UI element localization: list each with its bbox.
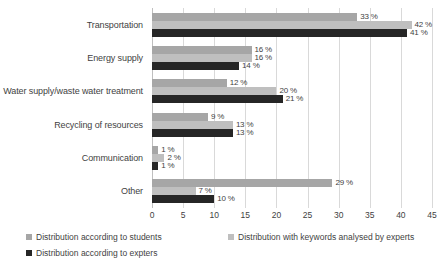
bar-group: 16 %16 %14 % [152,41,432,74]
bar-row: 2 % [152,154,432,162]
value-axis: 051015202530354045 [152,208,432,222]
value-axis-tick-label: 40 [396,210,405,220]
bar [152,187,196,195]
value-axis-tick-label: 45 [427,210,436,220]
bar-row: 9 % [152,113,432,121]
legend: Distribution according to students Distr… [26,232,436,264]
legend-swatch-icon [26,250,32,256]
category-label: Recycling of resources [0,108,148,141]
legend-item-students: Distribution according to students [26,232,228,242]
bar-row: 1 % [152,146,432,154]
value-axis-tick-label: 15 [241,210,250,220]
bar [152,87,276,95]
value-axis-tick-label: 10 [209,210,218,220]
bar-value-label: 29 % [332,179,352,187]
bar-groups: 33 %42 %41 %16 %16 %14 %12 %20 %21 %9 %1… [152,8,432,208]
legend-swatch-icon [26,234,32,240]
bar-row: 13 % [152,129,432,137]
legend-label: Distribution with keywords analysed by e… [238,232,414,242]
bar [152,121,233,129]
bar-row: 7 % [152,187,432,195]
bar-value-label: 41 % [407,29,427,37]
gridline [432,8,433,208]
bar-group: 1 %2 %1 % [152,141,432,174]
category-label: Energy supply [0,41,148,74]
category-label: Communication [0,141,148,174]
bar-group: 12 %20 %21 % [152,75,432,108]
legend-item-experts: Distribution according to expters [26,248,228,258]
legend-label: Distribution according to students [36,232,162,242]
category-label: Water supply/waste water treatment [0,75,148,108]
bar [152,29,407,37]
bar-value-label: 1 % [158,162,174,170]
bar-row: 10 % [152,195,432,203]
bar [152,21,412,29]
value-axis-tick-label: 35 [365,210,374,220]
bar [152,129,233,137]
bar [152,13,357,21]
legend-item-keywords: Distribution with keywords analysed by e… [228,232,414,242]
bar-group: 33 %42 %41 % [152,8,432,41]
legend-swatch-icon [228,234,234,240]
legend-label: Distribution according to expters [36,248,157,258]
bar-row: 14 % [152,62,432,70]
category-label: Other [0,175,148,208]
bar-value-label: 13 % [233,129,253,137]
bar-value-label: 12 % [227,79,247,87]
bar [152,95,283,103]
bar-value-label: 9 % [208,113,224,121]
bar-row: 41 % [152,29,432,37]
bar-row: 33 % [152,13,432,21]
bar-group: 9 %13 %13 % [152,108,432,141]
bar-row: 42 % [152,21,432,29]
bar-value-label: 21 % [283,95,303,103]
value-axis-tick-label: 20 [272,210,281,220]
bar-value-label: 14 % [239,62,259,70]
bar-row: 21 % [152,95,432,103]
bar [152,195,214,203]
value-axis-tick-label: 25 [303,210,312,220]
value-axis-tick-label: 0 [150,210,155,220]
bar [152,62,239,70]
value-axis-tick-label: 30 [334,210,343,220]
bar [152,179,332,187]
category-axis-labels: Transportation Energy supply Water suppl… [0,8,148,208]
bar-row: 29 % [152,179,432,187]
category-label: Transportation [0,8,148,41]
bar-value-label: 10 % [214,195,234,203]
bar-row: 16 % [152,54,432,62]
bar-group: 29 %7 %10 % [152,175,432,208]
bar-chart: Transportation Energy supply Water suppl… [0,0,448,278]
value-axis-tick-label: 5 [181,210,186,220]
bar-value-label: 33 % [357,13,377,21]
bar-row: 1 % [152,162,432,170]
bar-row: 13 % [152,121,432,129]
plot-area: 33 %42 %41 %16 %16 %14 %12 %20 %21 %9 %1… [152,8,432,208]
bar [152,113,208,121]
bar [152,54,252,62]
bar-row: 16 % [152,46,432,54]
bar [152,79,227,87]
bar [152,46,252,54]
bar-value-label: 7 % [196,187,212,195]
